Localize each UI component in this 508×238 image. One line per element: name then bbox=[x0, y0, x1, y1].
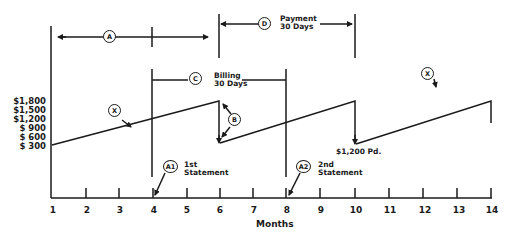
second-statement-annotation: 2nd Statement bbox=[318, 161, 363, 177]
x-tick-label: 8 bbox=[284, 206, 290, 215]
y-tick-label: $ 300 bbox=[2, 142, 46, 151]
x-tick-label: 2 bbox=[84, 206, 90, 215]
callout-a1: A1 bbox=[163, 160, 178, 173]
diagram-canvas bbox=[0, 0, 508, 238]
payment-annotation: Payment 30 Days bbox=[280, 15, 317, 31]
x-tick-label: 6 bbox=[217, 206, 223, 215]
x-tick-label: 1 bbox=[50, 206, 56, 215]
x-axis-title: Months bbox=[256, 220, 294, 229]
balance-sawtooth-line bbox=[52, 101, 219, 145]
x-axis-ticks bbox=[86, 188, 491, 198]
callout-x: X bbox=[108, 104, 121, 117]
callout-d: D bbox=[258, 17, 271, 30]
callout-x: X bbox=[421, 67, 434, 80]
callout-a: A bbox=[103, 30, 116, 43]
x-tick-label: 4 bbox=[151, 206, 157, 215]
callout-a2: A2 bbox=[296, 160, 311, 173]
x-tick-label: 11 bbox=[384, 206, 397, 215]
x-tick-label: 10 bbox=[350, 206, 363, 215]
x-tick-label: 13 bbox=[453, 206, 466, 215]
x-tick-label: 3 bbox=[117, 206, 123, 215]
x-tick-label: 7 bbox=[251, 206, 257, 215]
callout-c: C bbox=[189, 72, 202, 85]
x-tick-label: 5 bbox=[184, 206, 190, 215]
span-a bbox=[58, 14, 219, 58]
x-tick-label: 14 bbox=[486, 206, 499, 215]
x-tick-label: 12 bbox=[419, 206, 432, 215]
callout-b: B bbox=[228, 113, 241, 126]
billing-annotation: Billing 30 Days bbox=[214, 72, 247, 88]
first-statement-annotation: 1st Statement bbox=[184, 161, 229, 177]
paid-annotation: $1,200 Pd. bbox=[336, 148, 381, 156]
x-tick-label: 9 bbox=[318, 206, 324, 215]
